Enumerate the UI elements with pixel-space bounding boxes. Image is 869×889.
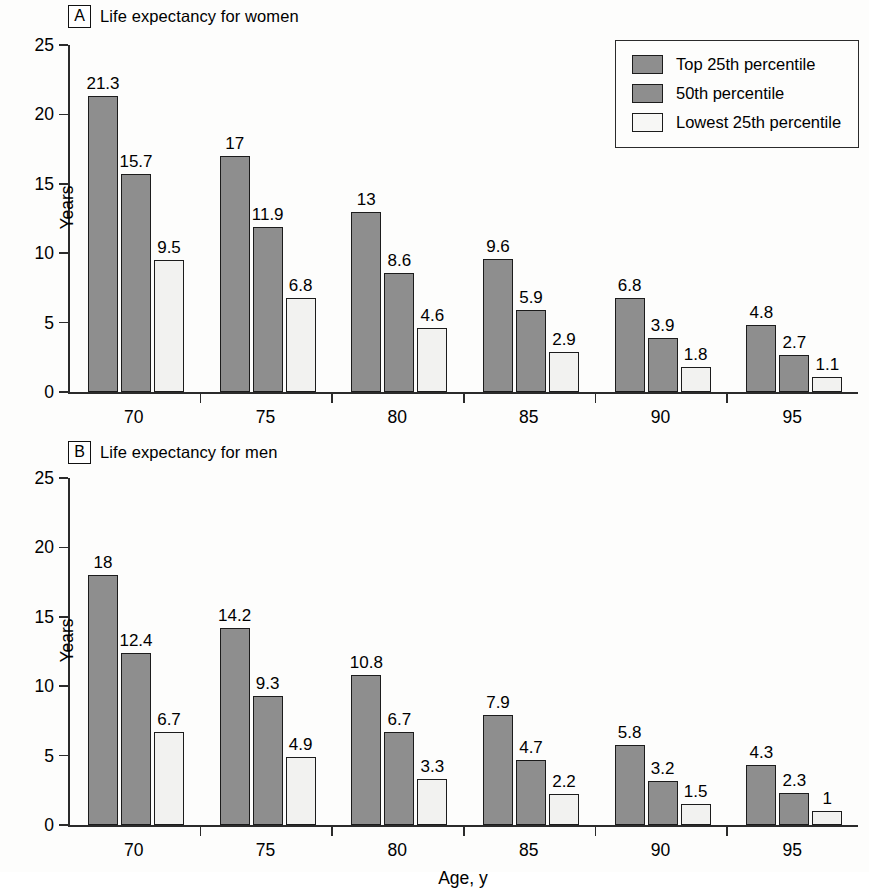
bar: 13 xyxy=(351,212,381,392)
legend-label-50th: 50th percentile xyxy=(676,84,784,103)
bar-value-label: 6.8 xyxy=(289,276,313,296)
bar: 4.9 xyxy=(286,757,316,825)
bar-value-label: 2.7 xyxy=(783,333,807,353)
legend-swatch-icon-50th xyxy=(632,84,663,103)
bar: 18 xyxy=(88,575,118,825)
bar-value-label: 11.9 xyxy=(252,205,284,225)
bar: 10.8 xyxy=(351,675,381,825)
bar: 1.5 xyxy=(681,804,711,825)
y-axis-tick-label: 20 xyxy=(35,537,54,558)
bar-value-label: 17 xyxy=(225,134,244,154)
bar: 2.3 xyxy=(779,793,809,825)
legend-item-top-25th: Top 25th percentile xyxy=(632,50,858,79)
legend-item-50th: 50th percentile xyxy=(632,79,858,108)
x-axis-tick xyxy=(200,825,202,836)
bar: 11.9 xyxy=(253,227,283,392)
bar: 6.8 xyxy=(286,298,316,392)
bar-value-label: 15.7 xyxy=(119,152,152,172)
y-axis-tick-label: 25 xyxy=(35,468,54,489)
bar-value-label: 5.9 xyxy=(519,288,543,308)
y-axis-tick xyxy=(59,44,68,46)
x-axis-tick-label: 85 xyxy=(519,407,538,428)
bar-value-label: 1.1 xyxy=(816,355,840,375)
legend: Top 25th percentile 50th percentile Lowe… xyxy=(615,40,859,148)
bar: 12.4 xyxy=(121,653,151,825)
y-axis-tick-label: 5 xyxy=(44,312,54,333)
bar-value-label: 9.5 xyxy=(157,238,181,258)
bar: 17 xyxy=(220,156,250,392)
bar-value-label: 7.9 xyxy=(486,693,510,713)
bar-value-label: 14.2 xyxy=(218,606,251,626)
legend-label-lowest-25th: Lowest 25th percentile xyxy=(676,113,841,132)
bar: 2.2 xyxy=(549,794,579,825)
legend-swatch-icon-lowest-25th xyxy=(632,113,663,132)
bar-value-label: 2.9 xyxy=(552,330,576,350)
panel-a-y-axis-label: Years xyxy=(57,185,78,229)
y-axis-tick-label: 25 xyxy=(35,35,54,56)
y-axis-tick xyxy=(59,547,68,549)
panel-b-heading: B Life expectancy for men xyxy=(68,440,277,464)
x-axis-label: Age, y xyxy=(438,868,488,889)
bar-value-label: 8.6 xyxy=(388,251,412,271)
x-axis-tick xyxy=(595,825,597,836)
y-axis-tick-label: 0 xyxy=(44,815,54,836)
bar-value-label: 4.8 xyxy=(750,303,774,323)
bar: 14.2 xyxy=(220,628,250,825)
bar: 9.5 xyxy=(154,260,184,392)
x-axis-tick-label: 70 xyxy=(124,407,143,428)
x-axis-tick-label: 75 xyxy=(256,407,275,428)
panel-a-letter: A xyxy=(68,5,91,28)
bar-value-label: 2.3 xyxy=(783,771,807,791)
x-axis-tick xyxy=(331,392,333,403)
y-axis-tick xyxy=(59,685,68,687)
bar: 9.3 xyxy=(253,696,283,825)
bar: 1.1 xyxy=(812,377,842,392)
y-axis-tick xyxy=(59,114,68,116)
bar-value-label: 18 xyxy=(94,553,113,573)
panel-b-title: Life expectancy for men xyxy=(100,443,277,462)
bar: 3.3 xyxy=(417,779,447,825)
bar: 4.3 xyxy=(746,765,776,825)
bar: 2.7 xyxy=(779,355,809,392)
x-axis-tick xyxy=(595,392,597,403)
panel-b-letter: B xyxy=(68,441,91,464)
y-axis-tick xyxy=(59,183,68,185)
y-axis-tick-label: 20 xyxy=(35,104,54,125)
bar: 21.3 xyxy=(88,96,118,392)
x-axis-tick-label: 80 xyxy=(387,407,406,428)
x-axis-tick-label: 75 xyxy=(256,840,275,861)
bar: 6.8 xyxy=(615,298,645,392)
bar-value-label: 21.3 xyxy=(86,74,119,94)
y-axis-tick-label: 10 xyxy=(35,676,54,697)
bar-value-label: 6.7 xyxy=(157,710,181,730)
legend-swatch-icon-top-25th xyxy=(632,55,663,74)
bar: 1 xyxy=(812,811,842,825)
bar: 2.9 xyxy=(549,352,579,392)
bar: 6.7 xyxy=(384,732,414,825)
y-axis-tick-label: 15 xyxy=(35,606,54,627)
y-axis-tick xyxy=(59,391,68,393)
bar-value-label: 3.9 xyxy=(651,316,675,336)
y-axis-tick-label: 5 xyxy=(44,745,54,766)
y-axis-tick-label: 0 xyxy=(44,382,54,403)
x-axis-tick xyxy=(726,392,728,403)
bar: 4.6 xyxy=(417,328,447,392)
bar-value-label: 3.2 xyxy=(651,759,675,779)
x-axis-tick-label: 90 xyxy=(651,840,670,861)
y-axis-tick xyxy=(59,616,68,618)
bar-value-label: 9.3 xyxy=(256,674,280,694)
bar-value-label: 13 xyxy=(357,190,376,210)
bar-value-label: 4.6 xyxy=(421,306,445,326)
bar: 7.9 xyxy=(483,715,513,825)
x-axis-tick-label: 70 xyxy=(124,840,143,861)
bar-value-label: 6.7 xyxy=(388,710,412,730)
panel-b-y-axis-label: Years xyxy=(57,618,78,662)
bar-value-label: 12.4 xyxy=(119,631,152,651)
bar-value-label: 10.8 xyxy=(350,653,383,673)
x-axis-tick-label: 95 xyxy=(782,407,801,428)
panel-b: B Life expectancy for men Years Age, y 0… xyxy=(0,436,869,872)
bar-value-label: 9.6 xyxy=(486,237,510,257)
x-axis-tick xyxy=(463,392,465,403)
x-axis-tick-label: 95 xyxy=(782,840,801,861)
